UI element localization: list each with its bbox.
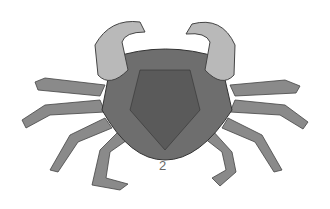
crab-icon	[0, 0, 330, 209]
figure-label: 2	[159, 158, 166, 173]
crab-illustration	[0, 0, 330, 209]
